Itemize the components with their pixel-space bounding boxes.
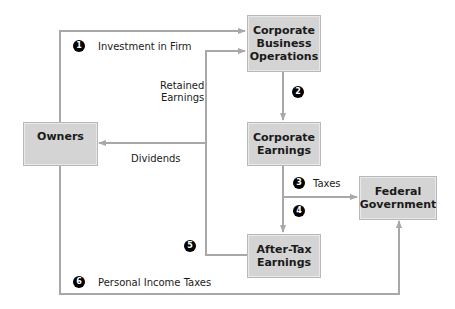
- box-text: Federal: [375, 185, 421, 198]
- label-retained: RetainedEarnings: [160, 80, 204, 104]
- step-badge-5: 5: [184, 240, 196, 252]
- box-text: Corporate: [253, 24, 315, 37]
- box-text: Business: [257, 37, 312, 50]
- step-badge-1: 1: [73, 40, 85, 52]
- step-badge-3: 3: [293, 177, 305, 189]
- box-text: After-Tax: [257, 243, 312, 256]
- step-badge-2: 2: [292, 86, 304, 98]
- box-text: Earnings: [257, 256, 311, 269]
- step-badge-4: 4: [293, 205, 305, 217]
- box-corporate-business-operations: CorporateBusinessOperations: [247, 15, 321, 72]
- label-taxes: Taxes: [313, 178, 341, 190]
- label-dividends: Dividends: [131, 153, 181, 165]
- step-badge-6: 6: [73, 276, 85, 288]
- label-text: Retained: [160, 80, 204, 91]
- box-after-tax-earnings: After-TaxEarnings: [247, 234, 321, 278]
- box-owners: Owners: [23, 122, 98, 166]
- box-text: Government: [360, 198, 436, 211]
- box-text: Operations: [250, 50, 319, 63]
- box-text: Earnings: [257, 144, 311, 157]
- box-corporate-earnings: CorporateEarnings: [247, 122, 321, 166]
- box-text: Corporate: [253, 131, 315, 144]
- box-federal-government: FederalGovernment: [359, 176, 437, 220]
- label-text: Earnings: [161, 92, 204, 103]
- box-text: Owners: [37, 130, 84, 143]
- label-investment: Investment in Firm: [98, 41, 192, 53]
- label-personal-income-taxes: Personal Income Taxes: [98, 277, 211, 289]
